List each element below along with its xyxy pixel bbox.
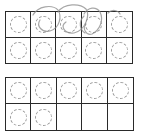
ten-frame-cell bbox=[82, 78, 107, 104]
ten-frame-cell bbox=[108, 78, 133, 104]
dashed-circle-counter-icon bbox=[85, 16, 102, 33]
dashed-circle-counter-icon bbox=[10, 42, 27, 59]
dashed-circle-counter-icon bbox=[35, 42, 52, 59]
ten-frame-cell bbox=[107, 12, 132, 38]
ten-frame-cell bbox=[31, 104, 56, 130]
ten-frame-top bbox=[5, 11, 133, 64]
ten-frame-cell bbox=[6, 78, 31, 104]
ten-frame-cell bbox=[56, 12, 81, 38]
dashed-circle-counter-icon bbox=[35, 109, 52, 126]
dashed-circle-counter-icon bbox=[10, 109, 27, 126]
ten-frame-cell bbox=[6, 104, 31, 130]
ten-frame-cell bbox=[6, 38, 31, 64]
dashed-circle-counter-icon bbox=[111, 42, 128, 59]
ten-frame-cell bbox=[6, 12, 31, 38]
ten-frame-cell bbox=[31, 78, 56, 104]
dashed-circle-counter-icon bbox=[60, 82, 77, 99]
ten-frame-cell bbox=[82, 104, 107, 130]
dashed-circle-counter-icon bbox=[60, 42, 77, 59]
dashed-circle-counter-icon bbox=[112, 82, 129, 99]
dashed-circle-counter-icon bbox=[111, 16, 128, 33]
dashed-circle-counter-icon bbox=[60, 16, 77, 33]
ten-frame-cell bbox=[57, 104, 82, 130]
ten-frame-cell bbox=[31, 38, 56, 64]
ten-frame-cell bbox=[82, 12, 107, 38]
dashed-circle-counter-icon bbox=[10, 16, 27, 33]
ten-frame-cell bbox=[31, 12, 56, 38]
ten-frame-cell bbox=[82, 38, 107, 64]
ten-frame-cell bbox=[57, 78, 82, 104]
dashed-circle-counter-icon bbox=[86, 82, 103, 99]
dashed-circle-counter-icon bbox=[35, 82, 52, 99]
dashed-circle-counter-icon bbox=[35, 16, 52, 33]
dashed-circle-counter-icon bbox=[10, 82, 27, 99]
ten-frame-bottom bbox=[5, 77, 134, 131]
ten-frame-cell bbox=[56, 38, 81, 64]
dashed-circle-counter-icon bbox=[85, 42, 102, 59]
ten-frame-cell bbox=[107, 38, 132, 64]
ten-frame-cell bbox=[108, 104, 133, 130]
